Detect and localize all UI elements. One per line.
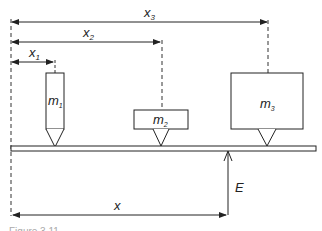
diagram-canvas: x3 x2 x1 m1 m2 m3 E x Figure 3.11 <box>0 0 322 231</box>
x-label: x <box>113 198 121 213</box>
mass-m3: m3 <box>231 73 303 146</box>
x3-label: x3 <box>143 5 156 22</box>
reaction-label: E <box>235 180 244 195</box>
beam <box>11 146 316 151</box>
x1-label: x1 <box>28 45 40 62</box>
mass-m2: m2 <box>134 110 188 146</box>
x2-label: x2 <box>82 25 95 42</box>
figure-caption: Figure 3.11 <box>9 226 59 231</box>
mass-m1: m1 <box>46 73 64 147</box>
